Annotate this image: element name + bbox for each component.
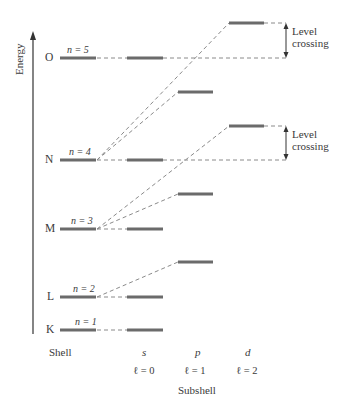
n-label-5: n = 5 — [67, 45, 89, 55]
p-levels — [178, 92, 213, 262]
s-levels — [127, 58, 163, 330]
s-subshell-symbol: s — [142, 347, 146, 358]
p-subshell-symbol: p — [195, 347, 201, 358]
shell-letter-l: L — [47, 291, 54, 303]
energy-axis-label: Energy — [14, 43, 25, 75]
arrow-down-icon — [284, 52, 289, 58]
level-crossing-label-lower: Level crossing — [292, 128, 329, 152]
d-subshell-symbol: d — [245, 347, 251, 358]
level-crossing-arrow-upper — [284, 23, 289, 58]
p-l-value: ℓ = 1 — [184, 366, 205, 377]
level-crossing-arrow-lower — [284, 126, 289, 160]
level-crossing-line1: Level — [292, 25, 329, 37]
n-label-1: n = 1 — [75, 317, 97, 327]
shell-letter-k: K — [46, 324, 54, 336]
energy-axis-arrowhead-icon — [30, 31, 36, 40]
arrow-down-icon — [284, 154, 289, 160]
n-label-2: n = 2 — [73, 284, 95, 294]
level-crossing-line2: crossing — [292, 37, 329, 49]
shell-letter-n: N — [45, 154, 53, 166]
n-label-4: n = 4 — [69, 147, 91, 157]
d-levels — [229, 23, 264, 126]
dashed-connectors — [97, 23, 286, 330]
n-label-3: n = 3 — [71, 216, 93, 226]
arrow-up-icon — [284, 23, 289, 29]
level-crossing-line1: Level — [292, 128, 329, 140]
arrow-up-icon — [284, 126, 289, 132]
shell-column-label: Shell — [49, 347, 72, 358]
shell-letter-m: M — [45, 223, 55, 235]
s-l-value: ℓ = 0 — [133, 366, 154, 377]
level-crossing-line2: crossing — [292, 140, 329, 152]
shell-letter-o: O — [45, 52, 53, 64]
subshell-axis-label: Subshell — [178, 385, 216, 396]
level-crossing-label-upper: Level crossing — [292, 25, 329, 49]
d-l-value: ℓ = 2 — [236, 366, 257, 377]
